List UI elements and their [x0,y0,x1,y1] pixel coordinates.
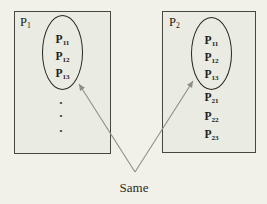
ellipse-items-p1: P11 P12 P13 [42,33,83,84]
box-label-p1: P1 [20,16,31,32]
ellipse-item: P11 [42,33,83,50]
below-item: P23 [191,127,232,146]
p-subscript: 12 [62,56,69,64]
below-item: P22 [191,109,232,128]
ellipse-item: P12 [191,51,232,68]
p-subscript: 1 [27,21,31,30]
box-label-p2: P2 [169,16,180,32]
ellipse-item: P13 [191,68,232,85]
p-subscript: 13 [62,73,69,81]
diagram-canvas: P1 P11 P12 P13 · · · P2 P11 P12 P13 P21 … [0,0,267,204]
ellipse-item: P12 [42,50,83,67]
p-subscript: 13 [211,73,218,81]
ellipse-item: P13 [42,67,83,84]
p-base: P [205,34,212,46]
ellipse-items-p2: P11 P12 P13 [191,34,232,85]
p-subscript: 11 [63,39,70,47]
same-label: Same [108,180,160,196]
below-item: P21 [191,90,232,109]
p-subscript: 21 [211,97,218,105]
p-subscript: 11 [212,39,219,47]
vertical-ellipsis-dot: · [56,125,66,137]
p-subscript: 22 [211,115,218,123]
below-items-p2: P21 P22 P23 [191,90,232,146]
p-base: P [169,15,176,29]
vertical-ellipsis-dot: · [56,110,66,122]
p-subscript: 12 [211,56,218,64]
p-base: P [20,15,27,29]
p-subscript: 23 [211,134,218,142]
p-base: P [56,33,63,45]
ellipse-item: P11 [191,34,232,51]
p-subscript: 2 [176,21,180,30]
